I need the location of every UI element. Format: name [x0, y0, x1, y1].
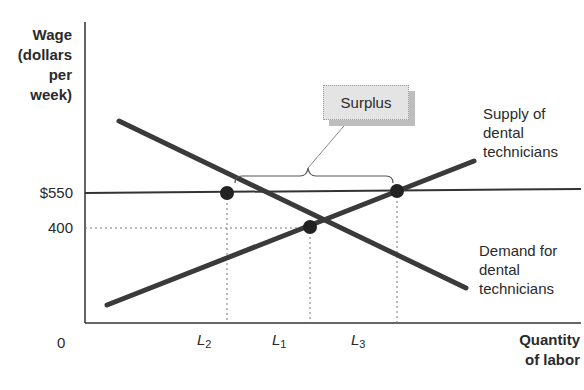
y-tick-550: $550 [20, 184, 73, 202]
x-tick-L3: L3 [351, 331, 365, 353]
x-axis-label: Quantity of labor [470, 330, 580, 370]
demand-label: Demand for dental technicians [479, 241, 557, 298]
y-tick-400: 400 [20, 219, 73, 237]
y-label-line: per [0, 65, 72, 85]
supply-label: Supply of dental technicians [483, 104, 558, 161]
surplus-brace [235, 168, 393, 183]
supply-curve [107, 161, 474, 305]
surplus-label: Surplus [323, 85, 409, 120]
point-L1 [303, 220, 317, 234]
origin-label: 0 [57, 334, 65, 352]
demand-label-line: Demand for [479, 241, 557, 260]
y-axis-label: Wage (dollars per week) [0, 25, 72, 105]
supply-label-line: Supply of [483, 104, 558, 123]
tick-sub: 1 [280, 338, 286, 350]
x-tick-L2: L2 [197, 331, 211, 353]
point-L3 [390, 184, 404, 198]
demand-label-line: technicians [479, 279, 557, 298]
y-label-line: (dollars [0, 45, 72, 65]
demand-label-line: dental [479, 260, 557, 279]
x-label-line: of labor [470, 350, 580, 370]
tick-sub: 3 [359, 338, 365, 350]
y-label-line: week) [0, 85, 72, 105]
x-tick-L1: L1 [272, 331, 286, 353]
point-L2 [220, 186, 234, 200]
y-label-line: Wage [0, 25, 72, 45]
wage-550-line [85, 189, 581, 193]
supply-label-line: dental [483, 123, 558, 142]
tick-sub: 2 [205, 338, 211, 350]
demand-curve [119, 121, 466, 288]
x-label-line: Quantity [470, 330, 580, 350]
supply-label-line: technicians [483, 142, 558, 161]
surplus-leader [308, 120, 349, 168]
